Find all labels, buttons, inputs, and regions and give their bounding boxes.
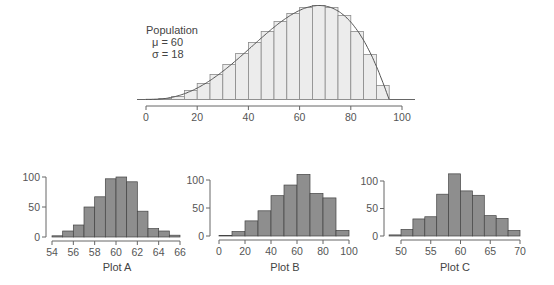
histogram-bar <box>148 229 159 237</box>
population-label: Population <box>146 24 198 36</box>
population-bar <box>248 43 261 100</box>
histogram-bar <box>73 225 84 237</box>
histogram-bar <box>472 195 484 236</box>
population-bar <box>287 14 300 100</box>
population-bar <box>210 75 223 100</box>
y-tick-label: 50 <box>28 201 40 213</box>
y-tick-label: 0 <box>198 230 204 242</box>
histogram-bar <box>297 174 310 236</box>
x-tick-label: 65 <box>484 245 496 257</box>
histogram-bar <box>105 179 116 237</box>
population-bar <box>312 6 325 100</box>
plot-c-title: Plot C <box>440 261 470 273</box>
histogram-bar <box>496 218 508 236</box>
population-bar <box>325 8 338 100</box>
histogram-bar <box>389 235 401 236</box>
histogram-bar <box>159 231 170 237</box>
sampling-distribution-figure: 020406080100 Population μ = 60 σ = 18 05… <box>0 0 554 285</box>
histogram-bar <box>63 231 74 237</box>
plot-c-histogram: 0501005055606570 <box>360 174 526 257</box>
y-tick-label: 50 <box>366 202 378 214</box>
histogram-bar <box>219 235 232 236</box>
histogram-bar <box>336 230 349 236</box>
x-tick-label: 60 <box>455 245 467 257</box>
histogram-bar <box>461 191 473 236</box>
population-bar <box>261 32 274 100</box>
histogram-bar <box>245 221 258 236</box>
y-tick-label: 100 <box>186 174 204 186</box>
plot-a-histogram: 05010054565860626466 <box>22 171 186 259</box>
y-tick-label: 0 <box>372 230 378 242</box>
y-tick-label: 100 <box>360 175 378 187</box>
plot-b-histogram: 050100020406080100 <box>186 174 357 258</box>
population-bar <box>300 8 313 100</box>
histogram-bar <box>127 182 138 237</box>
histogram-bar <box>425 217 437 236</box>
x-tick-label: 70 <box>514 245 526 257</box>
histogram-bar <box>310 193 323 236</box>
x-tick-label: 0 <box>216 245 222 257</box>
population-x-tick-label: 0 <box>143 111 149 123</box>
histogram-bar <box>449 174 461 236</box>
x-tick-label: 64 <box>153 246 165 258</box>
population-sd-label: σ = 18 <box>152 48 184 60</box>
population-bar <box>236 54 249 100</box>
x-tick-label: 56 <box>67 246 79 258</box>
histogram-bar <box>484 216 496 236</box>
population-mean-label: μ = 60 <box>152 36 183 48</box>
x-tick-label: 100 <box>340 245 358 257</box>
population-x-tick-label: 100 <box>393 111 411 123</box>
population-x-tick-label: 80 <box>345 111 357 123</box>
histogram-bar <box>401 229 413 236</box>
histogram-bar <box>508 231 520 237</box>
population-x-tick-label: 40 <box>243 111 255 123</box>
x-tick-label: 62 <box>131 246 143 258</box>
histogram-bar <box>84 207 95 237</box>
population-x-tick-label: 60 <box>294 111 306 123</box>
y-tick-label: 100 <box>22 171 40 183</box>
x-tick-label: 58 <box>89 246 101 258</box>
x-tick-label: 60 <box>110 246 122 258</box>
histogram-bar <box>169 235 180 237</box>
histogram-bar <box>232 232 245 236</box>
histogram-bar <box>413 219 425 236</box>
histogram-bar <box>271 196 284 236</box>
histogram-bar <box>258 211 271 236</box>
histogram-bar <box>116 177 127 237</box>
x-tick-label: 66 <box>174 246 186 258</box>
population-bar <box>274 22 287 100</box>
population-bar <box>338 16 351 100</box>
x-tick-label: 54 <box>46 246 58 258</box>
histogram-bar <box>52 236 63 237</box>
x-tick-label: 60 <box>291 245 303 257</box>
y-tick-label: 0 <box>34 231 40 243</box>
histogram-bar <box>137 211 148 237</box>
population-bar <box>376 86 389 100</box>
x-tick-label: 55 <box>425 245 437 257</box>
histogram-bar <box>284 185 297 236</box>
y-tick-label: 50 <box>192 202 204 214</box>
histogram-bar <box>437 194 449 236</box>
x-tick-label: 50 <box>395 245 407 257</box>
histogram-bar <box>323 198 336 236</box>
x-tick-label: 20 <box>239 245 251 257</box>
population-x-tick-label: 20 <box>191 111 203 123</box>
x-tick-label: 40 <box>265 245 277 257</box>
plot-a-title: Plot A <box>103 261 132 273</box>
plot-b-title: Plot B <box>270 261 299 273</box>
population-bar <box>184 91 197 100</box>
histogram-bar <box>95 197 106 237</box>
x-tick-label: 80 <box>317 245 329 257</box>
population-bar <box>351 32 364 100</box>
population-bar <box>197 84 210 100</box>
